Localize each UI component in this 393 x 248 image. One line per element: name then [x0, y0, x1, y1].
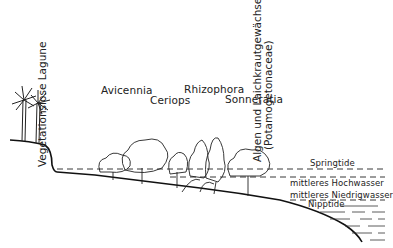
label-mittleres-hochwasser: mittleres Hochwasser: [290, 178, 384, 188]
water-hatching: [320, 206, 385, 240]
label-sonneratia: Sonneratia: [225, 93, 283, 105]
label-nipptide: Nipptide: [308, 199, 345, 209]
label-springtide: Springtide: [310, 158, 355, 168]
label-vegetationslose-lagune: Vegetationslose Lagune: [37, 42, 48, 167]
mangrove-profile-drawing: [0, 0, 393, 248]
label-avicennia: Avicennia: [101, 84, 153, 96]
mangrove-trees: [99, 138, 270, 196]
label-ceriops: Ceriops: [150, 94, 190, 106]
